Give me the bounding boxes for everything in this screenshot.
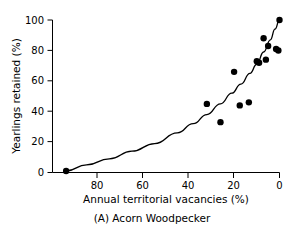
x-axis-tick-labels: 80 60 40 20 0 bbox=[91, 180, 283, 191]
data-point bbox=[256, 60, 262, 66]
y-axis-title: Yearlings retained (%) bbox=[10, 38, 22, 155]
fitted-curve bbox=[66, 20, 279, 171]
data-point bbox=[275, 47, 281, 53]
x-tick-label: 20 bbox=[227, 180, 240, 191]
figure-panel: 100 80 60 40 20 0 80 60 40 20 0 Annu bbox=[0, 0, 304, 231]
x-tick-label: 60 bbox=[136, 180, 149, 191]
data-point bbox=[204, 101, 210, 107]
y-tick-label: 100 bbox=[25, 15, 44, 26]
y-axis-tick-labels: 100 80 60 40 20 0 bbox=[25, 15, 44, 179]
x-axis-ticks bbox=[97, 173, 280, 179]
data-point bbox=[217, 119, 223, 125]
scatter-plot: 100 80 60 40 20 0 80 60 40 20 0 Annu bbox=[0, 0, 304, 231]
y-axis-ticks bbox=[48, 20, 53, 173]
data-point bbox=[237, 102, 243, 108]
data-point bbox=[231, 69, 237, 75]
data-point bbox=[276, 17, 282, 23]
data-point bbox=[260, 35, 266, 41]
data-point-group bbox=[63, 17, 283, 174]
data-point bbox=[63, 168, 69, 174]
data-point bbox=[246, 99, 252, 105]
x-axis-title: Annual territorial vacancies (%) bbox=[83, 193, 249, 205]
x-tick-label: 40 bbox=[182, 180, 195, 191]
y-tick-label: 80 bbox=[31, 45, 44, 56]
data-point bbox=[263, 56, 269, 62]
x-tick-label: 0 bbox=[276, 180, 282, 191]
y-tick-label: 20 bbox=[31, 136, 44, 147]
y-tick-label: 60 bbox=[31, 75, 44, 86]
figure-caption: (A) Acorn Woodpecker bbox=[94, 212, 211, 224]
data-point bbox=[265, 43, 271, 49]
x-tick-label: 80 bbox=[91, 180, 104, 191]
y-tick-label: 40 bbox=[31, 106, 44, 117]
y-tick-label: 0 bbox=[38, 167, 44, 178]
